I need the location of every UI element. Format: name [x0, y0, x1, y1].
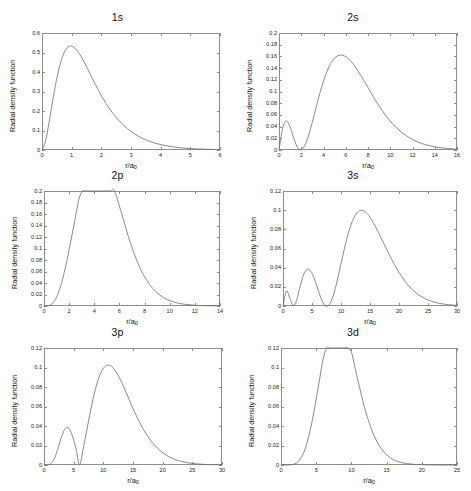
xlabel-subscript-3p: 0 — [136, 479, 139, 485]
curve-2p — [0, 163, 235, 333]
panel-2s: 2s024681012141600.020.040.060.080.10.120… — [235, 0, 471, 163]
xlabel-subscript-3d: 0 — [372, 479, 375, 485]
curve-1s — [0, 0, 235, 170]
curve-3s — [235, 163, 470, 333]
xlabel-text-3p: r/a — [127, 476, 136, 485]
curve-2s — [235, 0, 470, 170]
ylabel-3p: Radial density function — [10, 374, 19, 446]
panel-1s: 1s012345600.10.20.30.40.50.6Radial densi… — [0, 0, 235, 163]
curve-path-3d — [281, 347, 457, 465]
xlabel-text-3s: r/a — [364, 317, 373, 326]
xlabel-3p: r/a0 — [44, 476, 222, 485]
curve-path-3p — [44, 365, 222, 465]
xlabel-2p: r/a0 — [44, 317, 220, 326]
ylabel-2p: Radial density function — [10, 216, 19, 288]
curve-path-3s — [283, 210, 457, 306]
panel-2p: 2p0246810121400.020.040.060.080.10.120.1… — [0, 163, 235, 326]
curve-3p — [0, 326, 235, 491]
curve-3d — [235, 326, 470, 491]
curve-path-2s — [279, 55, 457, 150]
panel-3s: 3s05101520253000.020.040.060.080.10.12Ra… — [235, 163, 471, 326]
panel-3d: 3d051015202500.020.040.060.080.10.12Radi… — [235, 326, 471, 491]
orbital-radial-density-figure: 1s012345600.10.20.30.40.50.6Radial densi… — [0, 0, 471, 491]
ylabel-3d: Radial density function — [247, 374, 256, 446]
ylabel-3s: Radial density function — [249, 216, 258, 288]
panel-3p: 3p05101520253000.020.040.060.080.10.12Ra… — [0, 326, 235, 491]
xlabel-text-3d: r/a — [363, 476, 372, 485]
curve-path-1s — [42, 46, 220, 150]
ylabel-1s: Radial density function — [8, 59, 17, 131]
curve-path-2p — [44, 189, 220, 306]
xlabel-3d: r/a0 — [281, 476, 457, 485]
xlabel-3s: r/a0 — [283, 317, 457, 326]
ylabel-2s: Radial density function — [245, 59, 254, 131]
xlabel-text-2p: r/a — [126, 317, 135, 326]
